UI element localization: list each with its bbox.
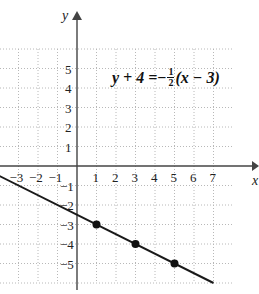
equation-sign: − bbox=[157, 69, 166, 87]
fraction-denominator: 2 bbox=[168, 78, 173, 88]
y-axis-arrow-icon bbox=[72, 11, 82, 20]
x-tick-label: 6 bbox=[190, 170, 197, 185]
x-axis-arrow-icon bbox=[252, 161, 259, 171]
data-point bbox=[93, 221, 101, 229]
y-tick-label: −3 bbox=[60, 218, 74, 233]
y-tick-label: −4 bbox=[60, 237, 74, 252]
coordinate-plane: y x −3−2−1123456754321−1−2−3−4−5 bbox=[0, 0, 259, 294]
y-axis-label: y bbox=[60, 8, 69, 23]
data-point bbox=[171, 260, 179, 268]
x-tick-label: 5 bbox=[171, 170, 178, 185]
x-tick-label: −2 bbox=[29, 170, 43, 185]
y-tick-label: −1 bbox=[60, 179, 74, 194]
x-tick-label: 4 bbox=[151, 170, 158, 185]
equation-rhs: (x − 3) bbox=[175, 69, 219, 87]
y-tick-label: 1 bbox=[65, 140, 72, 155]
x-tick-label: 3 bbox=[132, 170, 139, 185]
y-tick-label: 4 bbox=[65, 81, 72, 96]
equation-fraction: 1 2 bbox=[167, 67, 174, 88]
y-tick-label: −5 bbox=[60, 257, 74, 272]
x-tick-label: 2 bbox=[112, 170, 119, 185]
x-tick-label: 1 bbox=[93, 170, 100, 185]
x-tick-label: 7 bbox=[210, 170, 217, 185]
y-tick-label: 3 bbox=[65, 101, 72, 116]
equation-lhs: y + 4 = bbox=[112, 69, 157, 87]
y-tick-label: 2 bbox=[65, 120, 72, 135]
equation-label: y + 4 = − 1 2 (x − 3) bbox=[112, 67, 220, 88]
x-axis-label: x bbox=[251, 173, 259, 188]
data-point bbox=[132, 240, 140, 248]
graph-line bbox=[0, 176, 214, 283]
y-tick-label: 5 bbox=[65, 62, 72, 77]
